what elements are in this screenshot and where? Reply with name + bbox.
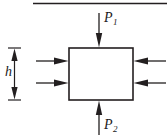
control-volume <box>69 48 133 100</box>
side-arrow-left-upper <box>36 58 69 65</box>
label-p1-subscript: 1 <box>113 17 118 27</box>
label-p2: P2 <box>104 116 117 132</box>
label-p1: P1 <box>104 9 117 25</box>
label-p1-base: P <box>104 10 113 25</box>
pressure-arrow-bottom <box>96 101 102 136</box>
side-arrow-left-lower <box>36 80 69 87</box>
label-p2-base: P <box>104 117 113 132</box>
label-p2-subscript: 2 <box>113 124 118 134</box>
side-arrow-right-lower <box>134 80 167 87</box>
side-arrow-right-upper <box>134 58 167 65</box>
pressure-arrow-top <box>96 13 102 48</box>
label-h: h <box>5 63 12 79</box>
diagram-canvas <box>0 0 167 140</box>
free-body-diagram: P1 P2 h <box>0 0 167 140</box>
label-h-base: h <box>5 64 12 79</box>
